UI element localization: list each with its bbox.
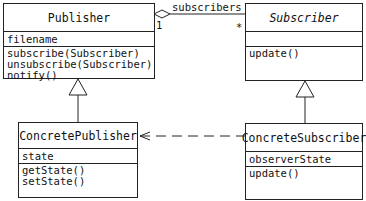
class-publisher[interactable]: Publisher filename subscribe(Subscriber)… — [3, 3, 155, 79]
class-concrete-publisher[interactable]: ConcretePublisher state getState() setSt… — [18, 122, 138, 198]
inheritance-triangle-icon — [296, 81, 314, 97]
class-subscriber[interactable]: Subscriber update() — [245, 3, 363, 81]
operation: update() — [249, 48, 359, 59]
class-name: Publisher — [4, 4, 154, 32]
attribute: state — [19, 149, 137, 164]
attributes-empty — [246, 32, 362, 47]
multiplicity-target: * — [236, 21, 242, 33]
association-role: subscribers — [172, 1, 242, 13]
aggregation-diamond-icon — [154, 10, 170, 18]
class-name: Subscriber — [246, 4, 362, 32]
attribute: observerState — [246, 152, 362, 167]
operation: setState() — [22, 176, 134, 187]
operation: update() — [249, 168, 359, 179]
operation: notify() — [7, 70, 151, 81]
class-name: ConcreteSubscriber — [246, 124, 362, 152]
attribute: filename — [4, 32, 154, 47]
class-concrete-subscriber[interactable]: ConcreteSubscriber observerState update(… — [245, 123, 363, 200]
multiplicity-source: 1 — [156, 19, 162, 31]
class-name: ConcretePublisher — [19, 123, 137, 149]
